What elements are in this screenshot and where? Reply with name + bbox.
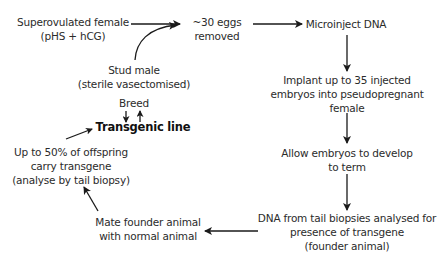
node-breed: Breed: [119, 96, 149, 110]
node-dna-analysed: DNA from tail biopsies analysed for pres…: [258, 211, 436, 253]
node-mate-founder: Mate founder animal with normal animal: [95, 215, 200, 243]
arrow-stud-to-eggs: [135, 25, 176, 60]
node-transgenic-line: Transgenic line: [96, 120, 191, 134]
node-implant-embryos: Implant up to 35 injected embryos into p…: [270, 73, 423, 115]
node-stud-male: Stud male (sterile vasectomised): [78, 63, 190, 91]
arrow-mate-to-offspring: [84, 187, 98, 211]
arrow-offspring-to-transgenic: [66, 129, 92, 139]
node-superovulated-female: Superovulated female (pHS + hCG): [17, 15, 129, 43]
node-microinject-dna: Microinject DNA: [306, 17, 387, 31]
node-allow-develop: Allow embryos to develop to term: [281, 146, 412, 174]
node-eggs-removed: ~30 eggs removed: [192, 15, 241, 43]
node-offspring-transgene: Up to 50% of offspring carry transgene (…: [12, 145, 130, 187]
